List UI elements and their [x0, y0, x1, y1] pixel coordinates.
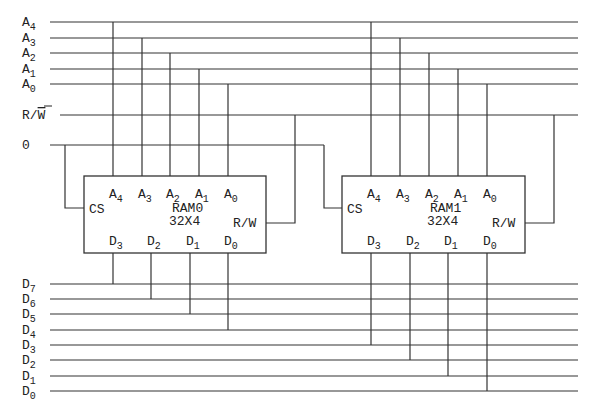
rw-pin-label: R/W [233, 216, 257, 231]
cs-pin-label: CS [89, 202, 105, 217]
cs-wire [65, 145, 84, 208]
rw-wire [266, 115, 295, 223]
chips: A4A3A2A1A0CSRAM032X4R/WD3D2D1D0A4A3A2A1A… [84, 176, 525, 253]
zero-label: 0 [22, 138, 30, 153]
chip-ram0: A4A3A2A1A0CSRAM032X4R/WD3D2D1D0 [84, 176, 266, 253]
bus-labels: A4A3A2A1A0R/W0D7D6D5D4D3D2D1D0 [22, 15, 52, 402]
ram-expansion-diagram: A4A3A2A1A0CSRAM032X4R/WD3D2D1D0A4A3A2A1A… [0, 0, 596, 416]
rw-wire [525, 115, 554, 223]
cs-wire [324, 145, 342, 208]
chip-ram1: A4A3A2A1A0CSRAM132X4R/WD3D2D1D0 [342, 176, 525, 253]
rw-pin-label: R/W [492, 216, 516, 231]
cs-pin-label: CS [347, 202, 363, 217]
rw-label: R/W [22, 108, 46, 123]
chip-size: 32X4 [169, 214, 200, 229]
chip-size: 32X4 [427, 214, 458, 229]
